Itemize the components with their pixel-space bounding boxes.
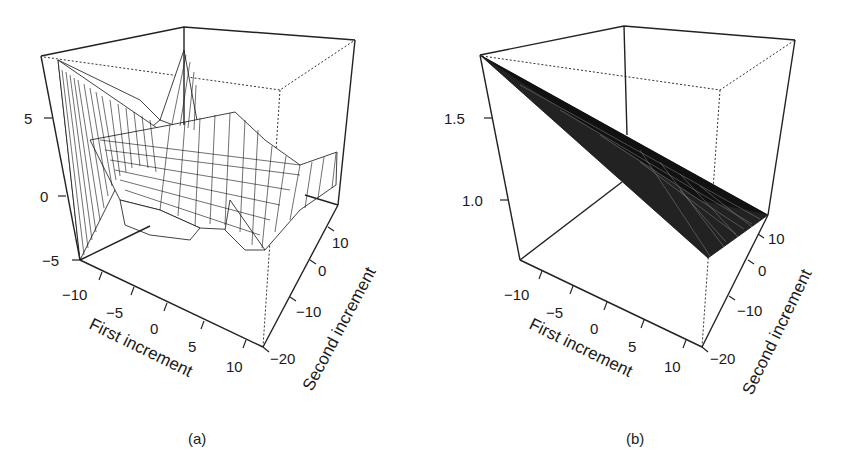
right-vertical [338,40,355,205]
right-vertical [768,40,795,215]
y-tick-label: −20 [710,350,735,367]
y-tick-label: 0 [758,262,766,279]
panel-a: 5 0 −5 −10 −5 0 5 10 First increment −20… [24,27,380,447]
x-tick-label: −10 [504,286,529,303]
z-tick-label: 1.5 [444,110,465,127]
y-tick-label: 10 [332,234,349,251]
surface-b [480,55,768,258]
y-tick-label: −20 [270,350,295,367]
panel-caption-b: (b) [626,430,644,447]
y-tick-label: −10 [296,303,321,320]
top-edges [41,27,355,56]
y-tick-label: 0 [318,262,326,279]
panel-b: 1.5 1.0 −10 −5 0 5 10 First increment −2… [444,26,816,447]
surface-a [58,50,337,260]
x-tick-label: 10 [226,358,243,375]
x-tick-label: 0 [150,320,158,337]
z-tick-label: −5 [42,252,59,269]
x-tick-label: 5 [628,338,636,355]
back-left-vertical [624,26,627,135]
y-axis-title: Second increment [299,264,380,394]
x-axis-title: First increment [526,315,636,381]
z-tick-label: 5 [24,110,32,127]
y-axis-title: Second increment [739,266,816,398]
x-tick-label: 10 [664,358,681,375]
z-tick-label: 0 [40,188,48,205]
x-tick-label: 5 [188,338,196,355]
z-axis-ticks-b: 1.5 1.0 [444,110,508,209]
z-tick-label: 1.0 [462,192,483,209]
x-tick-label: 0 [590,320,598,337]
x-tick-label: −5 [546,304,563,321]
floor-edge [520,182,622,260]
x-tick-label: −10 [62,286,87,303]
top-edges [480,26,795,55]
x-tick-label: −5 [106,304,123,321]
figure: 5 0 −5 −10 −5 0 5 10 First increment −20… [0,0,852,471]
y-tick-label: 10 [768,230,785,247]
x-axis-title: First increment [86,315,196,381]
panel-caption-a: (a) [188,430,206,447]
y-tick-label: −10 [737,302,762,319]
